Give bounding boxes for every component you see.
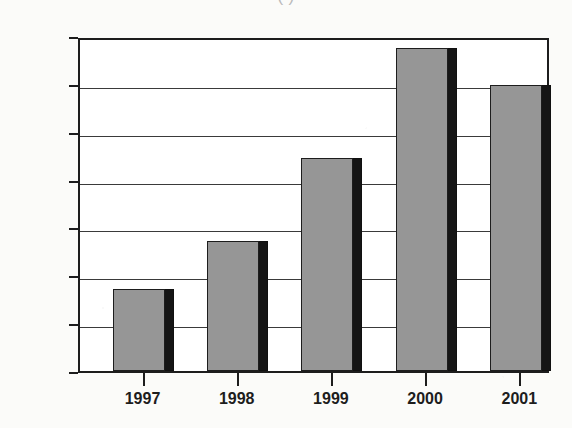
y-axis-tick-mark — [69, 85, 78, 87]
x-axis-tick-mark — [519, 373, 521, 386]
title-text: ( ) — [277, 0, 294, 7]
x-axis-tick-mark — [237, 373, 239, 386]
x-axis-tick-mark — [143, 373, 145, 386]
x-axis-tick-label: 2000 — [407, 390, 443, 408]
gridline — [80, 88, 547, 89]
plot-area — [78, 38, 549, 373]
bar-face — [113, 289, 165, 371]
x-axis-tick-mark — [425, 373, 427, 386]
clipped-title: ( ) — [0, 0, 572, 14]
gridline — [80, 136, 547, 137]
x-axis-tick-label: 1999 — [313, 390, 349, 408]
y-axis-tick-mark — [69, 372, 78, 374]
x-axis-tick-label: 1998 — [219, 390, 255, 408]
bar-face — [207, 241, 259, 371]
y-axis-tick-mark — [69, 324, 78, 326]
x-axis-tick-label: 2001 — [502, 390, 538, 408]
bar-face — [396, 48, 448, 371]
y-axis-tick-mark — [69, 181, 78, 183]
y-axis-tick-mark — [69, 276, 78, 278]
x-axis-tick-label: 1997 — [125, 390, 161, 408]
bar-face — [301, 158, 353, 371]
x-axis-tick-mark — [331, 373, 333, 386]
y-axis-tick-mark — [69, 133, 78, 135]
y-axis-tick-mark — [69, 228, 78, 230]
bar-face — [490, 85, 542, 371]
y-axis-tick-mark — [69, 37, 78, 39]
